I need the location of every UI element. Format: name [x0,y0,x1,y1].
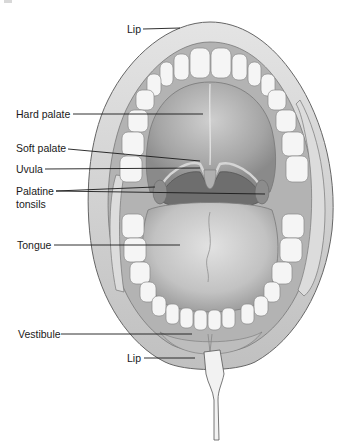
label-hard-palate: Hard palate [16,108,70,120]
tongue [143,203,278,313]
oral-cavity-illustration [0,0,348,446]
palatine-raphe [210,84,211,165]
label-palatine: Palatine [16,185,54,197]
leader-lip-top [143,28,180,29]
label-tonsils: tonsils [16,198,46,210]
label-soft-palate: Soft palate [16,142,66,154]
label-tongue: Tongue [17,239,51,251]
retractor-tool [204,350,224,440]
label-vestibule: Vestibule [18,328,61,340]
label-lip-top: Lip [127,23,141,35]
label-uvula: Uvula [16,163,43,175]
label-lip-bottom: Lip [127,352,141,364]
right-tonsil [255,180,269,204]
